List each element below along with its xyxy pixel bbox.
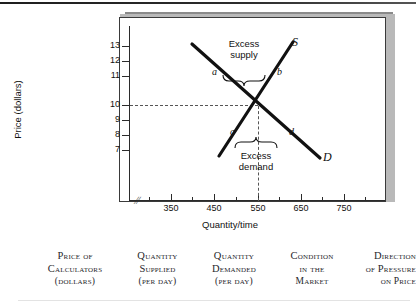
y-tick-10 xyxy=(122,105,129,106)
y-tick-11 xyxy=(122,76,129,77)
y-axis-line xyxy=(129,26,130,201)
x-tick-minor-1 xyxy=(149,197,150,201)
th-line2: Demanded xyxy=(195,263,273,276)
excess-supply-line2: supply xyxy=(230,49,257,60)
th-line2: Supplied xyxy=(120,263,195,276)
x-tick-label-750: 750 xyxy=(329,203,359,213)
y-tick-label-8: 8 xyxy=(98,130,120,139)
excess-demand-line2: demand xyxy=(239,161,273,172)
table-header-row: Price of Calculators (dollars) Quantity … xyxy=(0,248,416,298)
y-tick-label-11: 11 xyxy=(98,71,120,80)
x-tick-450 xyxy=(214,194,215,201)
th-line1: Direction xyxy=(351,250,416,263)
x-tick-minor-2 xyxy=(192,197,193,201)
x-tick-minor-4 xyxy=(279,197,280,201)
x-axis-title: Quantity/time xyxy=(160,219,300,230)
y-tick-13 xyxy=(122,46,129,47)
demand-curve-label: D xyxy=(323,150,332,165)
th-line2: in the xyxy=(273,263,351,276)
y-tick-8 xyxy=(122,135,129,136)
x-tick-label-550: 550 xyxy=(243,203,273,213)
th-line3: (per day) xyxy=(195,275,273,288)
point-label-b: b xyxy=(277,66,282,77)
x-tick-750 xyxy=(344,194,345,201)
table-header-condition-in-the-market: Condition in the Market xyxy=(273,248,351,298)
th-line3: Market xyxy=(273,275,351,288)
x-tick-350 xyxy=(171,194,172,201)
point-label-c: c xyxy=(230,126,234,137)
th-line3: on Price xyxy=(351,275,416,288)
page-bottom-rule xyxy=(18,300,410,301)
x-tick-minor-3 xyxy=(236,197,237,201)
th-line1: Quantity xyxy=(195,250,273,263)
point-label-a: a xyxy=(212,66,217,77)
y-tick-label-9: 9 xyxy=(98,115,120,124)
table-header-quantity-supplied: Quantity Supplied (per day) xyxy=(120,248,195,298)
y-tick-9 xyxy=(122,120,129,121)
point-label-d: d xyxy=(289,126,294,137)
table-header-direction-of-pressure-on-price: Direction of Pressure on Price xyxy=(351,248,416,298)
excess-demand-line1: Excess xyxy=(241,150,272,161)
th-line2: Calculators xyxy=(30,263,120,276)
x-tick-minor-6 xyxy=(365,197,366,201)
th-line3: (per day) xyxy=(120,275,195,288)
excess-supply-line1: Excess xyxy=(229,38,260,49)
y-axis-title: Price (dollars) xyxy=(12,65,23,155)
x-tick-label-350: 350 xyxy=(156,203,186,213)
th-line1: Price of xyxy=(30,250,120,263)
excess-supply-annotation: Excess supply xyxy=(209,38,279,60)
page-top-rule xyxy=(0,2,416,4)
y-tick-label-10: 10 xyxy=(98,100,120,109)
x-tick-minor-5 xyxy=(322,197,323,201)
x-tick-650 xyxy=(301,194,302,201)
y-tick-label-7: 7 xyxy=(98,145,120,154)
supply-curve-label: S xyxy=(292,35,298,50)
table-header-price-of-calculators: Price of Calculators (dollars) xyxy=(30,248,120,298)
th-line3: (dollars) xyxy=(30,275,120,288)
y-tick-label-12: 12 xyxy=(98,56,120,65)
table-header-spacer xyxy=(0,248,30,298)
x-tick-label-450: 450 xyxy=(199,203,229,213)
y-tick-12 xyxy=(122,61,129,62)
equilibrium-price-dashed-line xyxy=(130,105,258,106)
excess-demand-annotation: Excess demand xyxy=(221,150,291,172)
x-tick-label-650: 650 xyxy=(286,203,316,213)
th-line1: Condition xyxy=(273,250,351,263)
x-axis-line xyxy=(129,200,385,201)
table-header-quantity-demanded: Quantity Demanded (per day) xyxy=(195,248,273,298)
y-tick-7 xyxy=(122,150,129,151)
th-line2: of Pressure xyxy=(351,263,416,276)
y-tick-label-13: 13 xyxy=(98,41,120,50)
th-line1: Quantity xyxy=(120,250,195,263)
figure-page: 13 12 11 10 9 8 7 // 350 450 550 650 750… xyxy=(0,0,416,302)
